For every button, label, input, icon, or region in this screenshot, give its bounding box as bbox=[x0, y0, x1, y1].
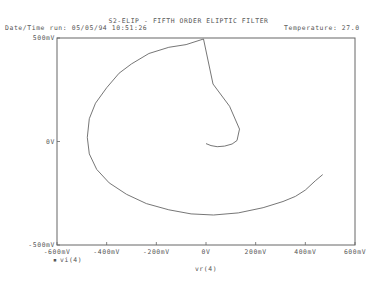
y-tick-label: 0V bbox=[46, 138, 55, 146]
x-tick-label: 600mV bbox=[344, 248, 366, 256]
axes-frame bbox=[57, 38, 355, 245]
x-tick-label: -200mV bbox=[143, 248, 170, 256]
data-series-line bbox=[87, 39, 322, 215]
x-tick-label: -400mV bbox=[93, 248, 120, 256]
x-tick-label: 200mV bbox=[245, 248, 267, 256]
y-tick-label: 500mV bbox=[33, 34, 55, 42]
plot-area: -600mV-400mV-200mV0V200mV400mV600mV 500m… bbox=[0, 0, 377, 288]
y-axis-ticks: 500mV0V-500mV bbox=[28, 34, 60, 249]
legend-label: vi(4) bbox=[60, 256, 82, 264]
legend-marker-icon: ▪ bbox=[53, 256, 57, 264]
y-tick-label: -500mV bbox=[28, 241, 55, 249]
x-axis-label: vr(4) bbox=[195, 265, 217, 273]
x-tick-label: 400mV bbox=[294, 248, 316, 256]
x-axis-ticks: -600mV-400mV-200mV0V200mV400mV600mV bbox=[44, 242, 366, 256]
x-tick-label: 0V bbox=[202, 248, 211, 256]
x-tick-label: -600mV bbox=[44, 248, 71, 256]
legend: ▪ vi(4) bbox=[53, 256, 82, 264]
